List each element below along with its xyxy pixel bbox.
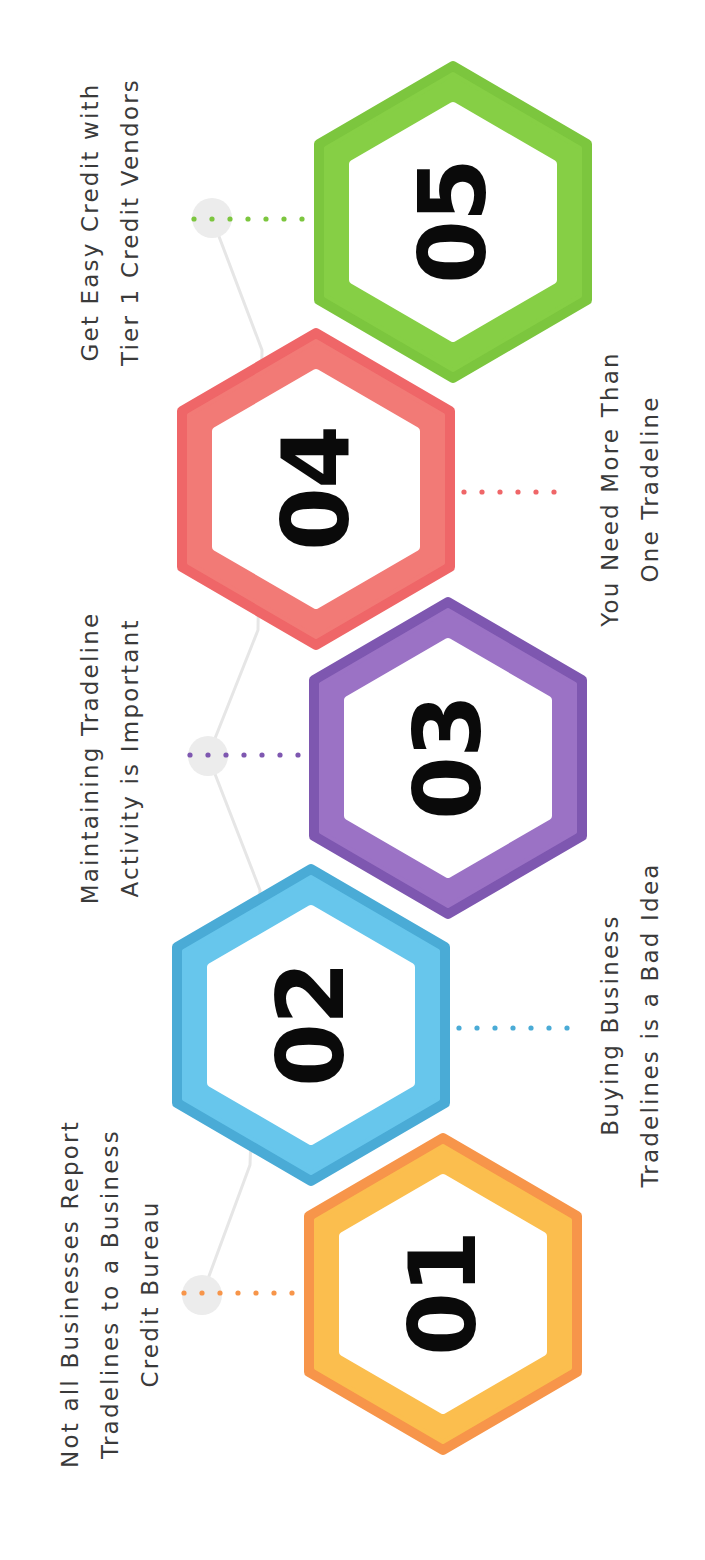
leader-dot [205, 752, 210, 757]
leader-dot [295, 752, 300, 757]
dotted-leader-02 [456, 1025, 569, 1030]
leader-dot [492, 1025, 497, 1030]
dotted-leader-04 [461, 489, 556, 494]
leader-dot [199, 1290, 204, 1295]
step-caption-02: Buying BusinessTradelines is a Bad Idea [597, 862, 663, 1188]
leader-dot [515, 489, 520, 494]
caption-line: Maintaining Tradeline [77, 612, 103, 905]
leader-dot [209, 216, 214, 221]
leader-dot [227, 216, 232, 221]
leader-dot [235, 1290, 240, 1295]
hexagon-step-04: 04 [182, 333, 450, 645]
caption-line: Buying Business [597, 914, 623, 1135]
leader-dot [241, 752, 246, 757]
leader-dot [474, 1025, 479, 1030]
step-number: 01 [390, 1232, 497, 1356]
leader-dot [263, 216, 268, 221]
leader-dot [528, 1025, 533, 1030]
step-number: 04 [263, 427, 370, 551]
leader-dot [181, 1290, 186, 1295]
leader-dot [277, 752, 282, 757]
leader-dot [259, 752, 264, 757]
leader-dot [223, 752, 228, 757]
leader-dot [546, 1025, 551, 1030]
caption-line: You Need More Than [597, 351, 623, 628]
step-caption-04: You Need More ThanOne Tradeline [597, 351, 663, 628]
caption-line: Tradelines is a Bad Idea [637, 862, 663, 1188]
leader-dot [245, 216, 250, 221]
step-number: 02 [258, 963, 365, 1087]
step-caption-01: Not all Businesses ReportTradelines to a… [57, 1120, 163, 1468]
leader-dot [217, 1290, 222, 1295]
infographic-canvas: 0102030405 Not all Businesses ReportTrad… [0, 0, 705, 1560]
leader-dot [281, 216, 286, 221]
leader-dot [456, 1025, 461, 1030]
hexagon-step-03: 03 [314, 602, 582, 914]
caption-line: Credit Bureau [137, 1200, 163, 1387]
leader-dot [533, 489, 538, 494]
caption-line: Get Easy Credit with [77, 82, 103, 361]
leader-dot [510, 1025, 515, 1030]
hexagon-step-01: 01 [309, 1138, 577, 1450]
hexagon-step-05: 05 [319, 66, 587, 378]
leader-dot [497, 489, 502, 494]
hexagon-step-02: 02 [177, 869, 445, 1181]
step-number: 03 [395, 696, 502, 820]
leader-dot [187, 752, 192, 757]
caption-line: Tier 1 Credit Vendors [117, 78, 143, 367]
leader-dot [461, 489, 466, 494]
caption-line: One Tradeline [637, 395, 663, 582]
hexagon-steps: 0102030405 [177, 66, 587, 1450]
leader-dot [564, 1025, 569, 1030]
leader-dot [299, 216, 304, 221]
caption-line: Not all Businesses Report [57, 1120, 83, 1468]
step-caption-03: Maintaining TradelineActivity is Importa… [77, 612, 143, 905]
leader-dot [271, 1290, 276, 1295]
leader-dot [551, 489, 556, 494]
caption-line: Activity is Important [117, 618, 143, 897]
leader-dot [289, 1290, 294, 1295]
caption-line: Tradelines to a Business [97, 1129, 123, 1460]
step-number: 05 [400, 160, 507, 284]
leader-dot [479, 489, 484, 494]
step-caption-05: Get Easy Credit withTier 1 Credit Vendor… [77, 78, 143, 367]
leader-dot [253, 1290, 258, 1295]
leader-dot [191, 216, 196, 221]
